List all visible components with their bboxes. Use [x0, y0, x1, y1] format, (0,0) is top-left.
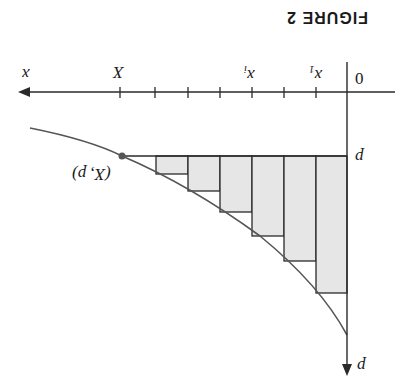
p-axis-arrow-icon: [342, 364, 352, 376]
point-X-p: [119, 153, 126, 160]
tick-label-X: X: [113, 64, 123, 81]
p-axis-label: p: [357, 358, 366, 375]
point-label: (X, p): [72, 166, 111, 183]
rectangle-6: [316, 156, 347, 293]
rectangle-3: [220, 156, 252, 212]
rectangle-5: [284, 156, 316, 261]
rectangle-4: [252, 156, 284, 236]
level-label-p: p: [355, 149, 364, 166]
x-axis-label: x: [22, 66, 30, 83]
rectangle-2: [188, 156, 220, 191]
x-axis-arrow-icon: [18, 87, 30, 97]
riemann-rectangles: [156, 156, 347, 293]
rectangle-1: [156, 156, 188, 174]
tick-label-xi: xi: [244, 64, 255, 84]
tick-label-x1: x1: [309, 64, 322, 84]
figure-title: FIGURE 2: [262, 8, 392, 26]
diagram-canvas: [0, 0, 401, 381]
origin-label: 0: [355, 70, 364, 87]
